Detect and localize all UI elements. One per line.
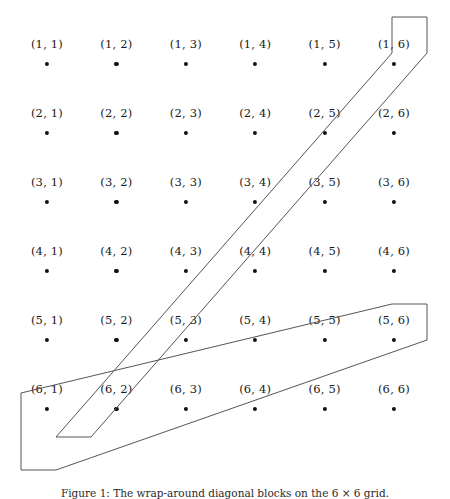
grid-node-label: (3, 3) <box>170 177 202 189</box>
grid-node-label: (1, 6) <box>378 39 410 51</box>
grid-node-label: (5, 3) <box>170 315 202 327</box>
grid-node-dot <box>45 200 49 204</box>
grid-node-dot <box>323 338 327 342</box>
grid-node-dot <box>323 407 327 411</box>
grid-node-label: (3, 5) <box>309 177 341 189</box>
grid-node-label: (6, 5) <box>309 384 341 396</box>
grid-node-dot <box>184 338 188 342</box>
grid-node-dot <box>45 62 49 66</box>
grid-node-label: (1, 4) <box>239 39 271 51</box>
grid-node-label: (2, 2) <box>100 108 132 120</box>
grid-node-label: (1, 5) <box>309 39 341 51</box>
grid-node-dot <box>253 338 257 342</box>
grid-node-label: (5, 2) <box>100 315 132 327</box>
grid-node-label: (3, 2) <box>100 177 132 189</box>
grid-node-label: (5, 5) <box>309 315 341 327</box>
grid-node-label: (4, 5) <box>309 246 341 258</box>
grid-node-dot <box>392 200 396 204</box>
grid-node-label: (1, 3) <box>170 39 202 51</box>
grid-node-dot <box>114 269 118 273</box>
grid-node-label: (5, 4) <box>239 315 271 327</box>
grid-node-label: (6, 4) <box>239 384 271 396</box>
grid-node-dot <box>114 407 118 411</box>
grid-node-dot <box>323 131 327 135</box>
grid-node-label: (2, 6) <box>378 108 410 120</box>
grid-node-label: (6, 2) <box>100 384 132 396</box>
grid-node-dot <box>45 269 49 273</box>
grid-node-label: (4, 1) <box>31 246 63 258</box>
grid-node-dot <box>323 62 327 66</box>
grid-node-dot <box>114 200 118 204</box>
grid-node-label: (4, 2) <box>100 246 132 258</box>
grid-node-label: (5, 6) <box>378 315 410 327</box>
grid-node-label: (5, 1) <box>31 315 63 327</box>
grid-node-dot <box>184 200 188 204</box>
grid-node-dot <box>253 269 257 273</box>
grid-node-label: (1, 2) <box>100 39 132 51</box>
grid-node-dot <box>184 62 188 66</box>
grid-node-label: (6, 3) <box>170 384 202 396</box>
grid-node-label: (3, 6) <box>378 177 410 189</box>
grid-node-dot <box>114 62 118 66</box>
grid-node-label: (4, 3) <box>170 246 202 258</box>
grid-node-label: (6, 6) <box>378 384 410 396</box>
grid-node-label: (2, 4) <box>239 108 271 120</box>
grid-node-label: (3, 4) <box>239 177 271 189</box>
grid-node-dot <box>323 200 327 204</box>
grid-node-label: (1, 1) <box>31 39 63 51</box>
grid-node-dot <box>184 407 188 411</box>
grid-node-dot <box>323 269 327 273</box>
grid-node-label: (2, 5) <box>309 108 341 120</box>
grid-node-label: (6, 1) <box>31 384 63 396</box>
grid-node-label: (3, 1) <box>31 177 63 189</box>
grid-node-dot <box>45 338 49 342</box>
figure-caption: Figure 1: The wrap-around diagonal block… <box>0 487 450 499</box>
grid-node-dot <box>253 131 257 135</box>
grid-node-label: (2, 1) <box>31 108 63 120</box>
grid-node-label: (4, 4) <box>239 246 271 258</box>
grid-node-dot <box>114 131 118 135</box>
grid-node-dot <box>253 62 257 66</box>
grid-node-dot <box>253 200 257 204</box>
grid-node-dot <box>392 131 396 135</box>
grid-node-dot <box>184 269 188 273</box>
grid-node-label: (4, 6) <box>378 246 410 258</box>
grid-node-dot <box>253 407 257 411</box>
grid-node-label: (2, 3) <box>170 108 202 120</box>
grid-node-dot <box>45 131 49 135</box>
grid-node-dot <box>392 407 396 411</box>
grid-node-dot <box>45 407 49 411</box>
grid-node-dot <box>392 62 396 66</box>
grid-node-dot <box>392 269 396 273</box>
grid-node-dot <box>114 338 118 342</box>
grid-node-dot <box>392 338 396 342</box>
grid-node-dot <box>184 131 188 135</box>
